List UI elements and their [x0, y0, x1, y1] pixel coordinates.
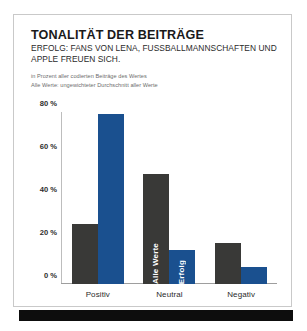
bar-group-neutral: Alle Werte Erfolg: [138, 112, 200, 284]
bar-groups: Alle Werte Erfolg: [62, 112, 277, 284]
bar-positiv-alle-werte[interactable]: [72, 224, 98, 284]
x-label-positiv: Positiv: [67, 290, 129, 299]
x-label-neutral: Neutral: [138, 290, 200, 299]
y-tick-80: 80 %: [40, 99, 57, 108]
subtitle-line-1: ERFOLG: FANS VON LENA, FUSSBALLMANNSCHAF…: [31, 43, 281, 54]
note-line-2: Alle Werte: ungewichteter Durchschnitt a…: [31, 81, 281, 91]
x-axis-labels: Positiv Neutral Negativ: [62, 286, 277, 306]
plot-area: 0 % 20 % 40 % 60 % 80 % Alle Werte: [61, 112, 277, 284]
bar-chart: 0 % 20 % 40 % 60 % 80 % Alle Werte: [31, 106, 281, 306]
y-tick-0: 0 %: [44, 271, 57, 280]
series-label-erfolg: Erfolg: [169, 257, 195, 284]
x-label-negativ: Negativ: [210, 290, 272, 299]
y-tick-40: 40 %: [40, 185, 57, 194]
note-line-1: in Prozent aller codierten Beiträge des …: [31, 72, 281, 82]
y-tick-20: 20 %: [40, 228, 57, 237]
bar-negativ-erfolg[interactable]: [241, 267, 267, 284]
bar-neutral-erfolg[interactable]: Erfolg: [169, 250, 195, 284]
bar-group-negativ: [210, 112, 272, 284]
chart-notes: in Prozent aller codierten Beiträge des …: [31, 72, 281, 92]
card-inner: TONALITÄT DER BEITRÄGE ERFOLG: FANS VON …: [31, 28, 281, 300]
bar-negativ-alle-werte[interactable]: [215, 243, 241, 284]
y-tick-60: 60 %: [40, 142, 57, 151]
series-label-alle-werte: Alle Werte: [143, 240, 169, 284]
bar-positiv-erfolg[interactable]: [98, 114, 124, 284]
subtitle-line-2: APPLE FREUEN SICH.: [31, 54, 281, 65]
footer-bar: [19, 310, 293, 321]
bar-group-positiv: [67, 112, 129, 284]
chart-card: TONALITÄT DER BEITRÄGE ERFOLG: FANS VON …: [13, 14, 292, 307]
bar-neutral-alle-werte[interactable]: Alle Werte: [143, 174, 169, 284]
page-title: TONALITÄT DER BEITRÄGE: [31, 28, 281, 42]
